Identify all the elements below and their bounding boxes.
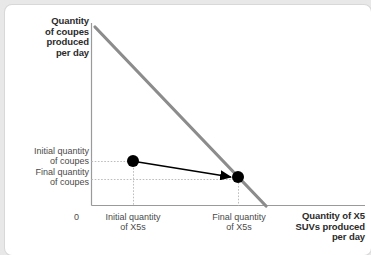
- y-tick-label-final: Final quantity of coupes: [7, 167, 89, 187]
- y-axis-title: Quantity of coupes produced per day: [13, 16, 89, 59]
- initial-production-point: [127, 155, 139, 167]
- x-axis-title: Quantity of X5 SUVs produced per day: [283, 211, 365, 243]
- chart-card: Quantity of coupes produced per day Init…: [5, 5, 371, 255]
- y-tick-label-initial: Initial quantity of coupes: [7, 146, 89, 166]
- final-production-point: [232, 171, 244, 183]
- origin-label: 0: [63, 212, 79, 222]
- shift-arrow: [138, 162, 231, 177]
- x-tick-label-initial: Initial quantity of X5s: [85, 212, 181, 232]
- x-tick-label-final: Final quantity of X5s: [191, 212, 287, 232]
